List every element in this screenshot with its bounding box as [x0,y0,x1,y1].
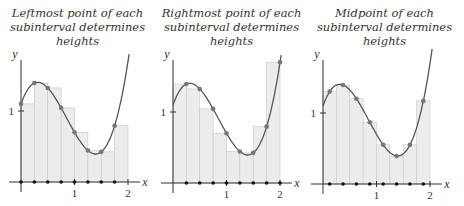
riemann-bar [417,101,430,184]
riemann-bar [115,126,128,182]
sample-point [211,107,216,112]
sample-point [197,87,202,92]
sample-point [99,150,104,155]
axis-sample-point [99,180,103,184]
riemann-bar [253,127,266,183]
axis-sample-point [238,181,242,185]
riemann-bar [350,99,363,184]
riemann-bar [75,132,88,182]
panel-left-rule: Leftmost point of each subinterval deter… [0,0,155,206]
axis-sample-point [328,182,332,186]
sample-point [368,120,373,125]
panel-right-rule: Rightmost point of each subinterval dete… [154,0,309,206]
axis-sample-point [422,182,426,186]
sample-point [72,130,77,135]
y-axis-label: y [11,47,18,61]
y-axis-label: y [163,47,170,61]
sample-point [238,149,243,154]
axis-sample-point [185,181,189,185]
x-tick-label: 1 [224,188,230,200]
axis-sample-point [19,180,23,184]
axis-sample-point [113,180,117,184]
axis-sample-point [368,182,372,186]
riemann-bar [213,133,226,183]
axis-sample-point [278,181,282,185]
riemann-bar [336,85,349,184]
sample-point [264,124,269,129]
axis-sample-point [225,181,229,185]
sample-point [32,81,37,86]
axis-sample-point [59,180,63,184]
riemann-bar [88,150,101,182]
y-tick-label: 1 [161,106,167,118]
axis-sample-point [86,180,90,184]
axis-sample-point [341,182,345,186]
axis-sample-point [33,180,37,184]
sample-point [86,148,91,153]
x-tick-label: 2 [277,188,283,200]
sample-point [394,154,399,159]
riemann-bar [48,88,61,182]
y-tick-label: 1 [311,107,317,119]
riemann-bar [101,152,114,182]
sample-point [278,60,283,65]
riemann-bar [323,92,336,184]
sample-point [341,83,346,88]
riemann-chart-right: yx112 [154,0,309,206]
panel-midpoint-rule: Midpoint of each subinterval determines … [305,0,464,206]
x-axis-label: x [443,177,450,191]
axis-sample-point [251,181,255,185]
x-axis-label: x [293,176,300,190]
x-tick-label: 2 [125,187,131,199]
axis-sample-point [198,181,202,185]
sample-point [59,106,64,111]
sample-point [19,102,24,107]
axis-sample-point [265,181,269,185]
riemann-bar [267,62,280,183]
riemann-bar [240,153,253,183]
sample-point [251,151,256,156]
axis-sample-point [73,180,77,184]
sample-point [354,96,359,101]
x-tick-label: 1 [72,187,78,199]
sample-point [45,86,50,91]
riemann-bar [403,145,416,184]
sample-point [381,143,386,148]
riemann-bar [21,104,34,182]
axis-sample-point [355,182,359,186]
sample-point [327,89,332,94]
x-tick-label: 1 [374,189,380,201]
riemann-bar [200,109,213,183]
sample-point [421,99,426,104]
sample-point [184,82,189,87]
axis-sample-point [395,182,399,186]
riemann-bar [390,156,403,184]
sample-point [112,123,117,128]
y-tick-label: 1 [9,105,15,117]
y-axis-label: y [313,47,320,61]
axis-sample-point [211,181,215,185]
axis-sample-point [46,180,50,184]
sample-point [224,131,229,136]
axis-sample-point [381,182,385,186]
x-axis-label: x [141,175,148,189]
x-tick-label: 2 [427,189,433,201]
sample-point [408,143,413,148]
axis-sample-point [408,182,412,186]
riemann-bar [34,83,47,182]
riemann-bar [227,151,240,183]
riemann-bar [186,89,199,183]
riemann-chart-midpoint: yx112 [305,0,464,206]
riemann-chart-left: yx112 [0,0,155,206]
